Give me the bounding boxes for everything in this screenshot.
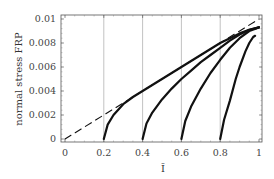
y-tick-label: 0.01 — [35, 13, 56, 24]
solid-curve — [220, 36, 255, 139]
x-tick-label: 0.2 — [96, 147, 111, 158]
x-tick-label: 1 — [256, 147, 262, 158]
x-axis-label: Ī — [161, 163, 165, 174]
x-tick-label: 0 — [62, 147, 68, 158]
x-tick-label: 0.8 — [213, 147, 228, 158]
y-tick-labels: 00.0020.0040.0060.0080.01 — [29, 13, 56, 144]
solid-curve — [143, 27, 259, 139]
y-tick-label: 0.004 — [29, 85, 56, 96]
chart: 00.20.40.60.81 00.0020.0040.0060.0080.01… — [0, 0, 274, 179]
y-tick-label: 0 — [50, 133, 56, 144]
y-tick-label: 0.008 — [29, 37, 56, 48]
data-series — [65, 19, 259, 139]
x-tick-label: 0.4 — [135, 147, 150, 158]
y-tick-label: 0.006 — [29, 61, 56, 72]
x-tick-label: 0.6 — [174, 147, 189, 158]
y-tick-label: 0.002 — [29, 109, 56, 120]
y-axis-label: normal stress FRP — [13, 32, 24, 126]
x-tick-labels: 00.20.40.60.81 — [62, 147, 262, 158]
